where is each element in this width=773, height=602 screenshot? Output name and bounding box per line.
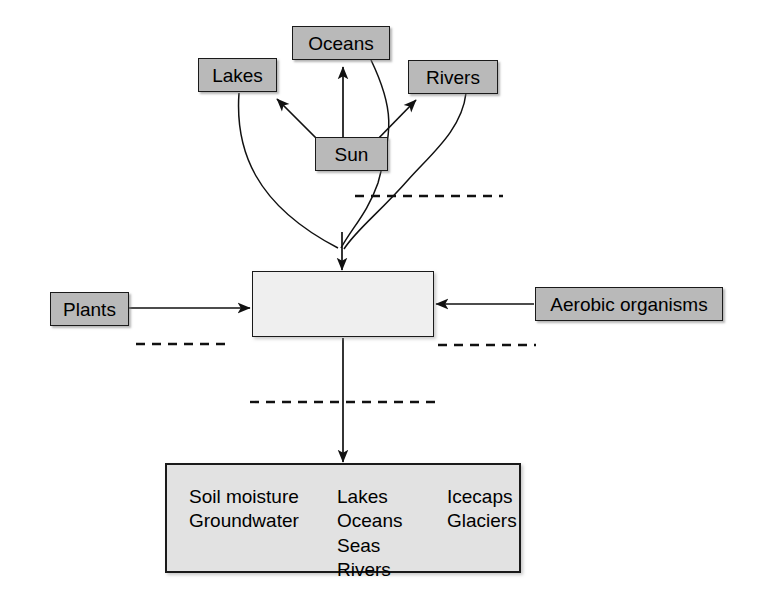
list-item: Glaciers [447,509,547,533]
list-item: Soil moisture [189,485,337,509]
node-rivers[interactable]: Rivers [408,60,498,94]
node-sun[interactable]: Sun [315,137,388,171]
node-aerobic-organisms-label: Aerobic organisms [550,295,707,314]
node-oceans-label: Oceans [308,34,373,53]
list-item: Lakes [337,485,447,509]
list-item: Rivers [337,558,447,582]
node-sun-label: Sun [335,145,369,164]
reservoirs-column-1: Soil moisture Groundwater [189,485,337,582]
list-item: Seas [337,534,447,558]
reservoirs-columns: Soil moisture Groundwater Lakes Oceans S… [189,485,547,582]
node-plants[interactable]: Plants [50,292,129,326]
node-center-blank[interactable] [252,271,434,337]
node-plants-label: Plants [63,300,116,319]
list-item: Oceans [337,509,447,533]
node-oceans[interactable]: Oceans [292,26,390,60]
curve-rivers-to-center [344,93,466,249]
diagram-canvas: Lakes Oceans Rivers Sun Plants Aerobic o… [0,0,773,602]
arrow-sun-to-lakes [277,99,318,140]
node-lakes-label: Lakes [212,66,263,85]
node-aerobic-organisms[interactable]: Aerobic organisms [535,287,723,321]
reservoirs-box: Soil moisture Groundwater Lakes Oceans S… [165,463,521,573]
node-lakes[interactable]: Lakes [198,58,277,92]
reservoirs-column-3: Icecaps Glaciers [447,485,547,582]
node-rivers-label: Rivers [426,68,480,87]
list-item: Icecaps [447,485,547,509]
list-item: Groundwater [189,509,337,533]
reservoirs-column-2: Lakes Oceans Seas Rivers [337,485,447,582]
